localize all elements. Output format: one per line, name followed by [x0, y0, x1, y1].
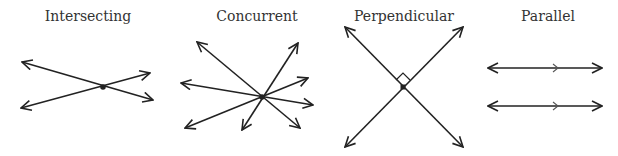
perpendicular-lines	[345, 27, 463, 147]
intersecting-lines	[21, 62, 153, 108]
right-angle-marker	[396, 73, 410, 80]
concurrent-lines	[181, 42, 313, 130]
line-diagrams	[0, 0, 618, 156]
parallel-lines	[488, 64, 602, 110]
